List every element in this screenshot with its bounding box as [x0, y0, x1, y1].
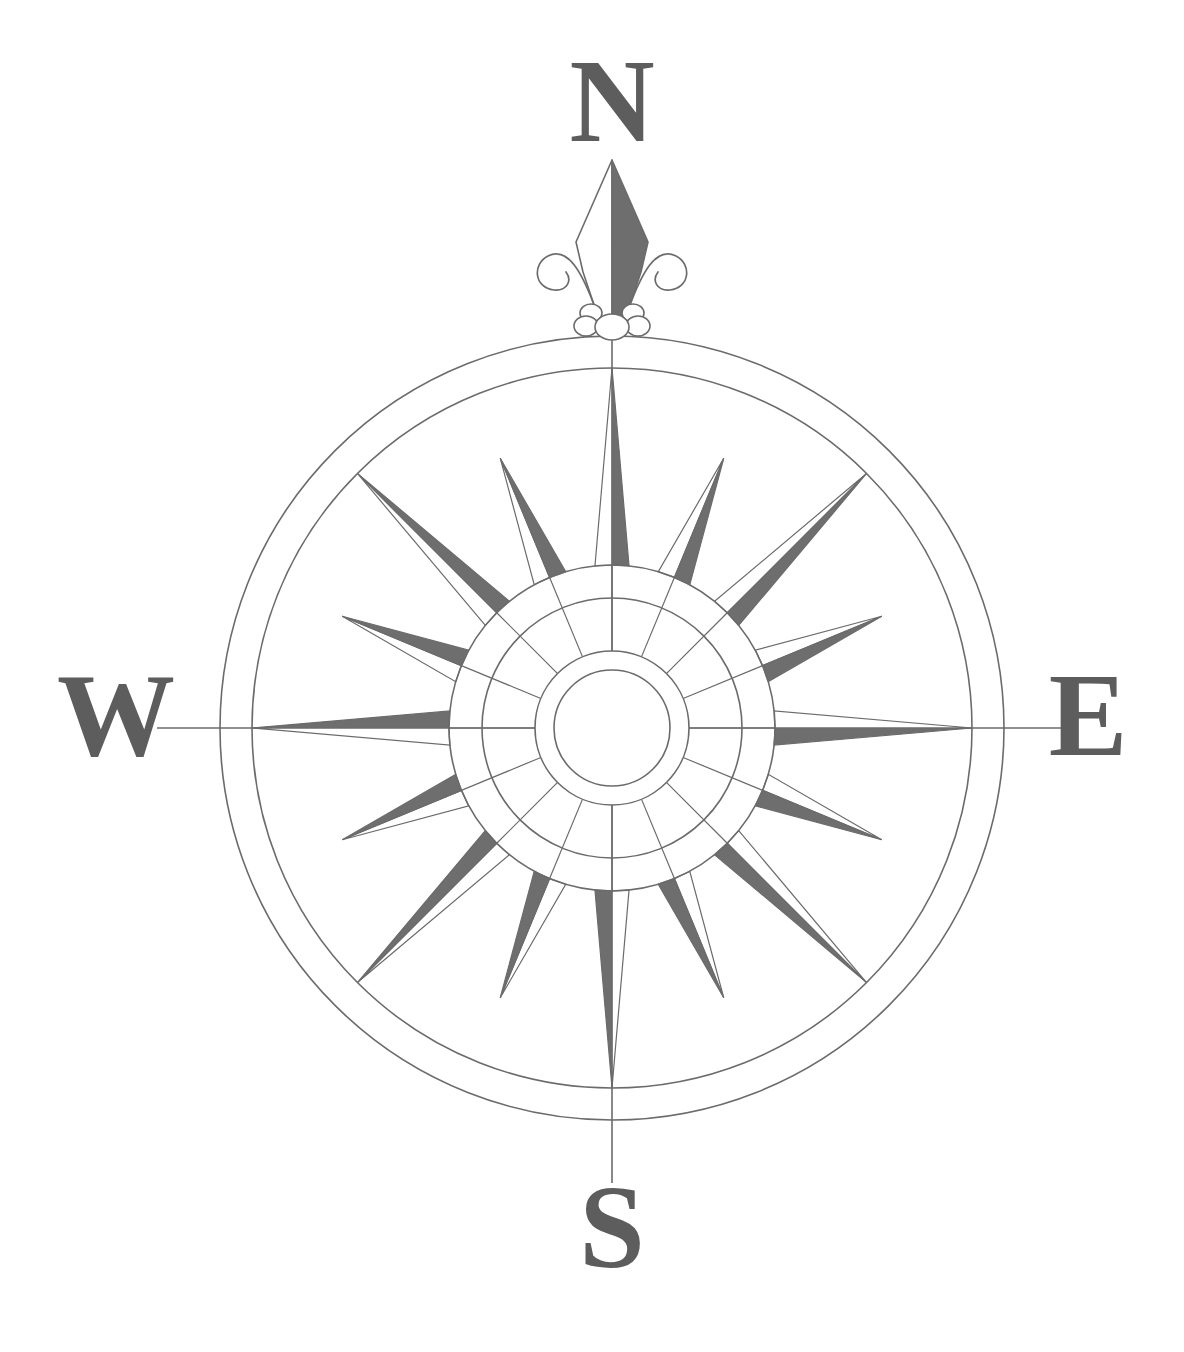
- cardinal-label-east: E: [1049, 650, 1128, 781]
- cardinal-label-south: S: [579, 1162, 645, 1293]
- cardinal-label-north: N: [569, 36, 654, 167]
- compass-rose-drawing: N E S W: [0, 0, 1184, 1352]
- compass-rose-figure: N E S W: [0, 0, 1184, 1352]
- cardinal-label-west: W: [57, 650, 175, 781]
- fleur-base-bead-4: [595, 314, 629, 340]
